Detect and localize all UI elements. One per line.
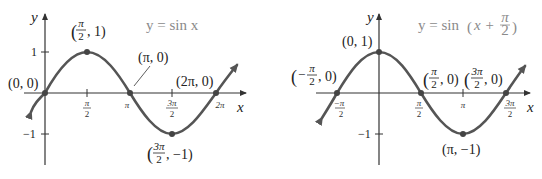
- left-y-axis-label: y: [29, 9, 38, 25]
- right-tick-3pi-over-2-num: 3π: [504, 98, 515, 108]
- right-graph-title: y = sin ( x + π 2 ): [418, 9, 517, 38]
- right-tick-neg-pi-over-2-den: 2: [339, 109, 344, 119]
- svg-text:(: (: [71, 22, 77, 43]
- svg-text:π: π: [431, 65, 437, 77]
- left-x-axis-label: x: [236, 99, 244, 115]
- svg-text:2: 2: [156, 153, 162, 165]
- svg-text:, 1): , 1): [87, 24, 106, 40]
- svg-text:3π: 3π: [152, 140, 165, 152]
- right-tick-pi-over-2-num: π: [417, 98, 422, 108]
- svg-text:2: 2: [474, 78, 480, 90]
- right-label-pi-over-2-zero: ( π 2 , 0): [423, 65, 459, 91]
- right-x-axis-label: x: [526, 99, 534, 115]
- svg-text:(: (: [464, 70, 470, 91]
- right-graph: y x −1 −π 2 π 2 π 3π 2 ( − π 2 , 0): [291, 9, 534, 165]
- left-tick-pi-over-2-den: 2: [85, 109, 90, 119]
- left-tick-3pi-over-2-num: 3π: [166, 98, 177, 108]
- svg-text:−: −: [298, 67, 305, 82]
- svg-text:, 0): , 0): [484, 72, 503, 88]
- svg-text:2: 2: [78, 30, 84, 42]
- right-label-pi-neg1: (π, −1): [442, 142, 481, 158]
- svg-text:, 0): , 0): [440, 72, 459, 88]
- left-label-min: ( 3π 2 , −1): [147, 140, 193, 165]
- right-y-tick-neg1: −1: [358, 127, 371, 141]
- left-label-max: ( π 2 , 1): [71, 17, 106, 43]
- right-tick-neg-pi-over-2-num: −π: [334, 98, 345, 108]
- svg-text:(: (: [147, 144, 153, 165]
- svg-text:(: (: [291, 67, 297, 88]
- diagram-canvas: y x 1 −1 π 2 π 3π 2 2π (0, 0) ( π 2: [0, 0, 542, 179]
- left-label-origin: (0, 0): [8, 76, 39, 92]
- right-label-neg-pi-over-2: ( − π 2 , 0): [291, 62, 337, 88]
- svg-text:2: 2: [309, 75, 315, 87]
- svg-text:, 0): , 0): [318, 69, 337, 85]
- left-tick-3pi-over-2-den: 2: [170, 109, 175, 119]
- left-tick-pi-over-2-num: π: [85, 98, 90, 108]
- left-label-2pi-zero: (2π, 0): [176, 74, 214, 90]
- right-tick-pi-over-2-den: 2: [417, 109, 422, 119]
- svg-text:(: (: [467, 19, 472, 36]
- right-tick-pi: π: [461, 100, 466, 110]
- left-tick-2pi: 2π: [215, 100, 225, 110]
- left-graph-title: y = sin x: [146, 17, 199, 33]
- right-label-0-1: (0, 1): [342, 34, 373, 50]
- svg-text:2: 2: [501, 22, 509, 38]
- svg-text:y = sin: y = sin: [418, 17, 459, 33]
- svg-text:π: π: [309, 62, 315, 74]
- left-label-pi-zero: (π, 0): [138, 50, 169, 66]
- svg-text:3π: 3π: [470, 65, 483, 77]
- left-graph: y x 1 −1 π 2 π 3π 2 2π (0, 0) ( π 2: [8, 9, 246, 165]
- left-y-tick-neg1: −1: [23, 127, 36, 141]
- right-label-3pi-over-2-zero: ( 3π 2 , 0): [464, 65, 503, 91]
- right-y-axis-label: y: [365, 9, 374, 25]
- svg-text:(: (: [423, 70, 429, 91]
- left-tick-pi: π: [125, 100, 130, 110]
- svg-text:x +: x +: [473, 17, 495, 33]
- svg-text:): ): [512, 19, 517, 36]
- left-y-tick-1: 1: [31, 45, 37, 59]
- svg-text:2: 2: [431, 78, 437, 90]
- svg-text:, −1): , −1): [166, 147, 193, 163]
- right-tick-3pi-over-2-den: 2: [508, 109, 513, 119]
- svg-text:π: π: [78, 17, 84, 29]
